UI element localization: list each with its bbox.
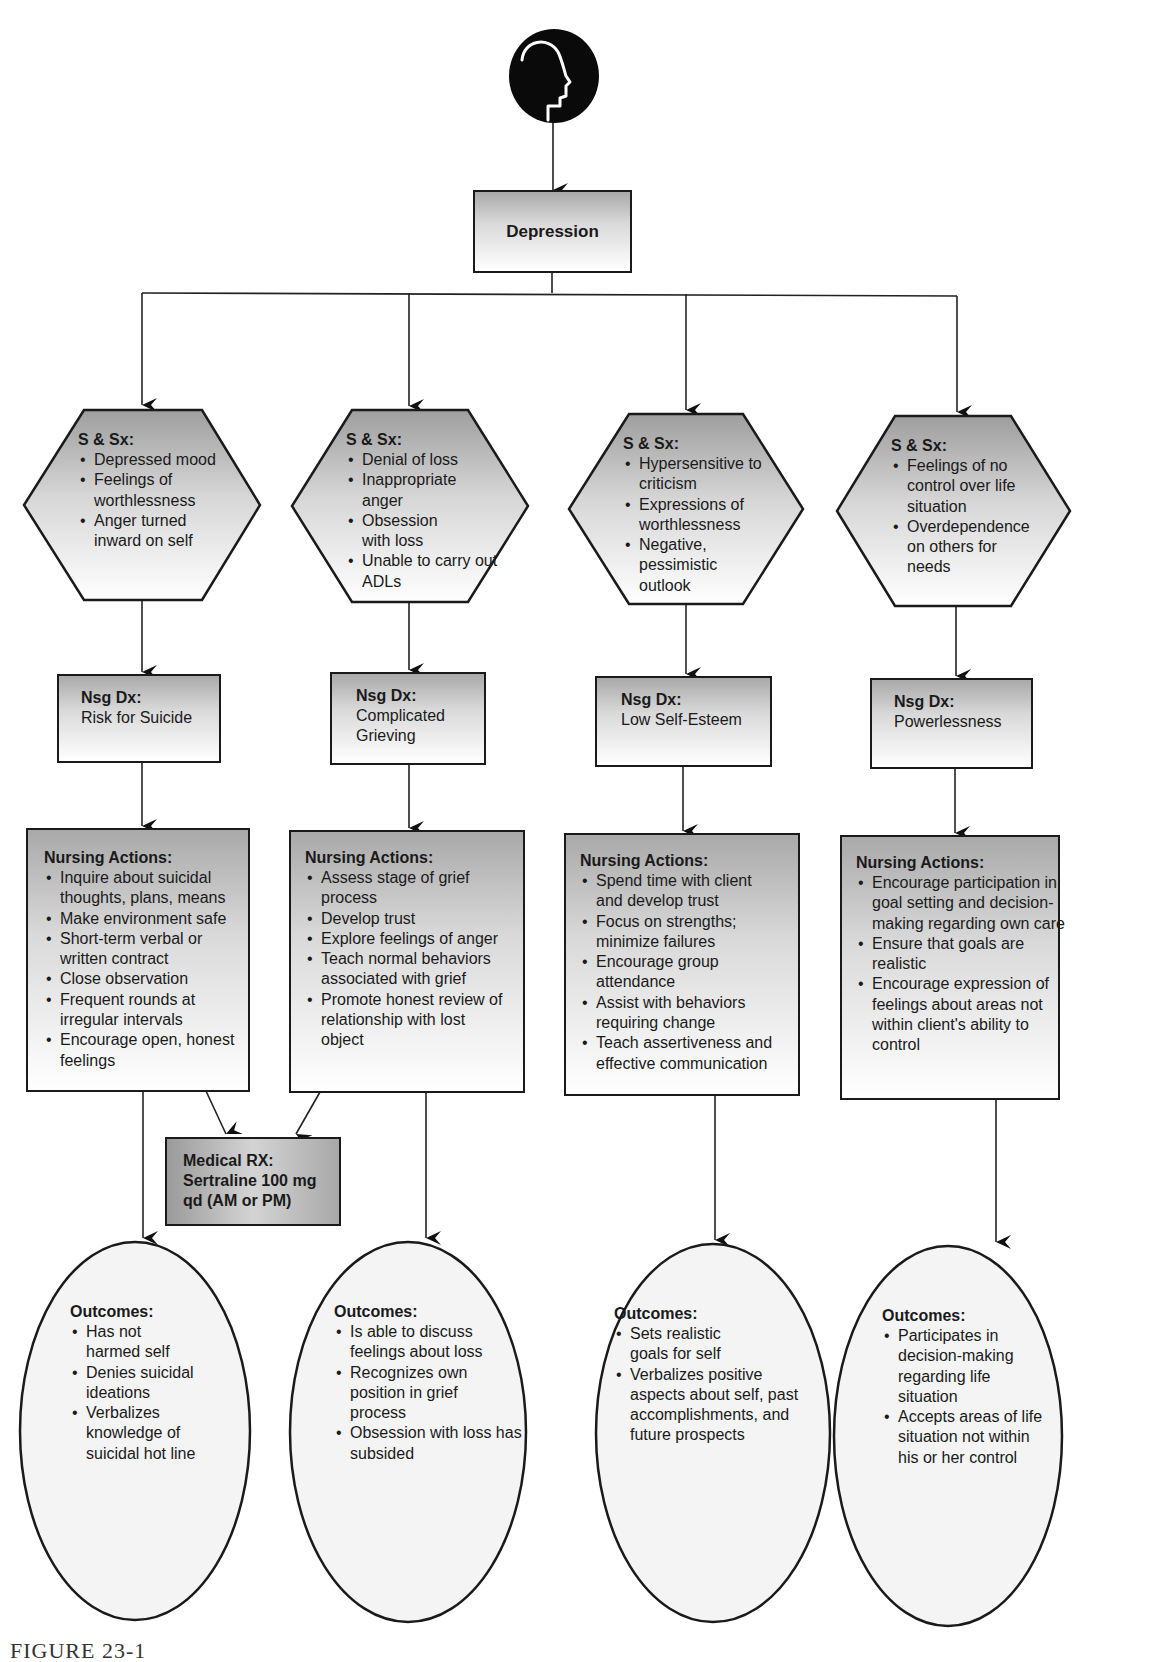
action-item: Close observation: [44, 969, 244, 989]
signs-item: Feelings of no control over life situati…: [891, 456, 1042, 517]
outcome-item: Sets realistic goals for self: [614, 1324, 750, 1365]
outcomes-title: Outcomes:: [334, 1302, 514, 1322]
action-item: Explore feelings of anger: [305, 929, 517, 949]
outcome-item: Verbalizes positive aspects about self, …: [614, 1365, 800, 1446]
signs-item: Anger turned inward on self: [78, 511, 228, 552]
action-item: Teach normal behaviors associated with g…: [305, 949, 521, 990]
medical-rx-title: Medical RX:: [183, 1151, 339, 1171]
signs-title: S & Sx:: [78, 430, 228, 450]
diagnosis-value: Low Self-Esteem: [621, 710, 770, 730]
action-item: Frequent rounds at irregular intervals: [44, 990, 244, 1031]
outcomes-ellipse-4: Outcomes: Participates in decision-makin…: [832, 1244, 1064, 1628]
outcome-item: Recognizes own position in grief process: [334, 1363, 500, 1424]
action-item: Spend time with client and develop trust: [580, 871, 776, 912]
signs-title: S & Sx:: [891, 436, 1041, 456]
diagnosis-title: Nsg Dx:: [356, 686, 484, 706]
diagnosis-value: Complicated Grieving: [356, 706, 456, 746]
signs-symptoms-hexagon-1: S & Sx: Depressed mood Feelings of worth…: [22, 408, 262, 602]
signs-item: Obsession with loss: [346, 511, 462, 552]
outcome-item: Participates in decision-making regardin…: [882, 1326, 1038, 1407]
outcome-item: Accepts areas of life situation not with…: [882, 1407, 1043, 1468]
medical-rx-box: Medical RX: Sertraline 100 mg qd (AM or …: [165, 1137, 341, 1226]
signs-title: S & Sx:: [346, 430, 496, 450]
action-item: Encourage group attendance: [580, 952, 756, 993]
actions-title: Nursing Actions:: [580, 851, 798, 871]
action-item: Inquire about suicidal thoughts, plans, …: [44, 868, 244, 909]
outcomes-ellipse-2: Outcomes: Is able to discuss feelings ab…: [288, 1240, 528, 1624]
actions-title: Nursing Actions:: [44, 848, 248, 868]
actions-title: Nursing Actions:: [305, 848, 523, 868]
signs-item: Hypersensitive to criticism: [623, 454, 774, 495]
outcome-item: Has not harmed self: [70, 1322, 186, 1363]
outcome-item: Obsession with loss has subsided: [334, 1423, 525, 1464]
nursing-diagnosis-box-2: Nsg Dx: Complicated Grieving: [330, 672, 486, 765]
diagnosis-value: Powerlessness: [894, 712, 1031, 732]
nursing-diagnosis-box-1: Nsg Dx: Risk for Suicide: [57, 674, 221, 763]
outcomes-title: Outcomes:: [614, 1304, 784, 1324]
diagnosis-title: Nsg Dx:: [621, 690, 770, 710]
diagnosis-title: Nsg Dx:: [894, 692, 1031, 712]
action-item: Teach assertiveness and effective commun…: [580, 1033, 806, 1074]
action-item: Short-term verbal or written contract: [44, 929, 244, 970]
nursing-actions-box-4: Nursing Actions: Encourage participation…: [840, 835, 1060, 1100]
outcomes-ellipse-1: Outcomes: Has not harmed self Denies sui…: [18, 1240, 252, 1622]
depression-title: Depression: [475, 192, 630, 271]
head-profile-icon: [508, 28, 600, 124]
depression-node: Depression: [473, 190, 632, 273]
diagnosis-title: Nsg Dx:: [81, 688, 219, 708]
action-item: Focus on strengths; minimize failures: [580, 912, 766, 953]
actions-title: Nursing Actions:: [856, 853, 1058, 873]
signs-symptoms-hexagon-3: S & Sx: Hypersensitive to criticism Expr…: [567, 412, 805, 606]
nursing-actions-box-2: Nursing Actions: Assess stage of grief p…: [289, 830, 525, 1093]
signs-item: Unable to carry out ADLs: [346, 551, 502, 592]
action-item: Assist with behaviors requiring change: [580, 993, 781, 1034]
nursing-diagnosis-box-3: Nsg Dx: Low Self-Esteem: [595, 676, 772, 767]
action-item: Encourage expression of feelings about a…: [856, 974, 1072, 1055]
action-item: Ensure that goals are realistic: [856, 934, 1057, 975]
action-item: Encourage participation in goal setting …: [856, 873, 1072, 934]
nursing-diagnosis-box-4: Nsg Dx: Powerlessness: [870, 678, 1033, 769]
signs-item: Inappropriate anger: [346, 470, 472, 511]
outcome-item: Denies suicidal ideations: [70, 1363, 216, 1404]
outcome-item: Verbalizes knowledge of suicidal hot lin…: [70, 1403, 226, 1464]
nursing-actions-box-1: Nursing Actions: Inquire about suicidal …: [26, 828, 250, 1092]
nursing-actions-box-3: Nursing Actions: Spend time with client …: [564, 833, 800, 1096]
signs-item: Negative, pessimistic outlook: [623, 535, 739, 596]
action-item: Assess stage of grief process: [305, 868, 491, 909]
signs-symptoms-hexagon-4: S & Sx: Feelings of no control over life…: [835, 414, 1072, 608]
figure-caption: FIGURE 23-1: [10, 1638, 146, 1662]
outcomes-ellipse-3: Outcomes: Sets realistic goals for self …: [594, 1242, 832, 1624]
outcome-item: Is able to discuss feelings about loss: [334, 1322, 515, 1363]
outcomes-title: Outcomes:: [70, 1302, 220, 1322]
signs-item: Depressed mood: [78, 450, 228, 470]
diagnosis-value: Risk for Suicide: [81, 708, 211, 728]
signs-title: S & Sx:: [623, 434, 773, 454]
action-item: Promote honest review of relationship wi…: [305, 990, 511, 1051]
medical-rx-drug: Sertraline 100 mg: [183, 1171, 339, 1191]
signs-item: Expressions of worthlessness: [623, 495, 774, 536]
signs-item: Feelings of worthlessness: [78, 470, 228, 511]
action-item: Make environment safe: [44, 909, 244, 929]
medical-rx-frequency: qd (AM or PM): [183, 1191, 339, 1211]
signs-item: Overdependence on others for needs: [891, 517, 1037, 578]
signs-item: Denial of loss: [346, 450, 496, 470]
action-item: Develop trust: [305, 909, 517, 929]
outcomes-title: Outcomes:: [882, 1306, 1042, 1326]
action-item: Encourage open, honest feelings: [44, 1030, 244, 1071]
signs-symptoms-hexagon-2: S & Sx: Denial of loss Inappropriate ang…: [290, 408, 530, 604]
